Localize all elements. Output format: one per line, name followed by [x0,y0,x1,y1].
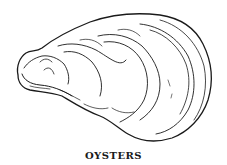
figure-caption: OYSTERS [0,150,227,161]
oyster-shell-illustration [0,0,227,150]
